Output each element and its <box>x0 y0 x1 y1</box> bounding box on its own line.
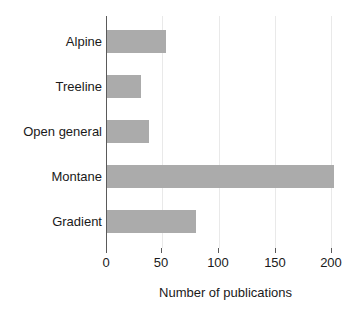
bar-montane <box>106 165 334 188</box>
xtick-label-200: 200 <box>311 255 351 270</box>
xtick-label-150: 150 <box>255 255 295 270</box>
xtick-mark-150 <box>275 248 276 253</box>
bar-chart: Alpine Treeline Open general Montane Gra… <box>0 0 355 315</box>
xtick-mark-200 <box>331 248 332 253</box>
bar-open-general <box>106 120 149 143</box>
bar-row <box>106 165 334 188</box>
cropped-title-remnant <box>96 0 266 5</box>
bar-treeline <box>106 75 141 98</box>
xtick-label-0: 0 <box>86 255 126 270</box>
category-label-treeline: Treeline <box>56 75 102 98</box>
plot-area <box>106 16 345 248</box>
xtick-label-50: 50 <box>141 255 181 270</box>
xtick-label-100: 100 <box>198 255 238 270</box>
category-label-alpine: Alpine <box>66 30 102 53</box>
category-label-gradient: Gradient <box>52 210 102 233</box>
bar-row <box>106 210 196 233</box>
bar-alpine <box>106 30 166 53</box>
x-axis-title: Number of publications <box>106 285 345 300</box>
xtick-mark-0 <box>106 248 107 253</box>
xtick-mark-50 <box>161 248 162 253</box>
gridline-200 <box>331 16 332 248</box>
bar-row <box>106 75 141 98</box>
bar-row <box>106 120 149 143</box>
y-axis-line <box>106 16 107 248</box>
category-label-montane: Montane <box>51 165 102 188</box>
bar-row <box>106 30 166 53</box>
gridline-100 <box>219 16 220 248</box>
category-label-open-general: Open general <box>23 120 102 143</box>
xtick-mark-100 <box>218 248 219 253</box>
gridline-150 <box>275 16 276 248</box>
bar-gradient <box>106 210 196 233</box>
